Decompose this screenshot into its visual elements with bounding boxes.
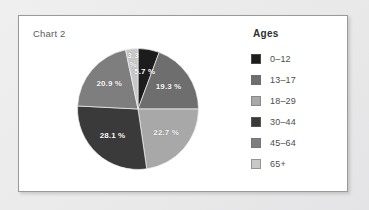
legend-item-label: 0–12 <box>270 54 291 64</box>
pie-slice-label: 28.1 % <box>100 132 126 141</box>
pie-slice[interactable] <box>138 109 199 169</box>
legend-items: 0–1213–1718–2930–4445–6465+ <box>251 48 341 174</box>
legend-swatch-icon <box>251 96 261 106</box>
legend-swatch-icon <box>251 117 261 127</box>
legend-item-label: 65+ <box>270 159 286 169</box>
pie-slice-label: 22.7 % <box>153 129 179 138</box>
screenshot-root: Chart 2 5.7 %19.3 %22.7 %28.1 %20.9 %3.3… <box>0 0 369 210</box>
pie-slice-label: 3.3 % <box>126 52 140 69</box>
legend-item[interactable]: 13–17 <box>251 69 341 90</box>
legend-item-label: 13–17 <box>270 75 296 85</box>
pie-slice-label: 20.9 % <box>96 80 122 89</box>
legend: Ages 0–1213–1718–2930–4445–6465+ <box>251 28 341 174</box>
legend-swatch-icon <box>251 138 261 148</box>
legend-swatch-icon <box>251 54 261 64</box>
legend-title: Ages <box>253 28 341 39</box>
legend-item[interactable]: 30–44 <box>251 111 341 132</box>
legend-item-label: 45–64 <box>270 138 296 148</box>
legend-item[interactable]: 45–64 <box>251 132 341 153</box>
legend-item-label: 18–29 <box>270 96 296 106</box>
pie-slice-label: 19.3 % <box>156 83 182 92</box>
legend-item-label: 30–44 <box>270 117 296 127</box>
legend-item[interactable]: 65+ <box>251 153 341 174</box>
pie-chart: 5.7 %19.3 %22.7 %28.1 %20.9 %3.3 % <box>77 48 199 170</box>
legend-swatch-icon <box>251 159 261 169</box>
legend-item[interactable]: 18–29 <box>251 90 341 111</box>
legend-item[interactable]: 0–12 <box>251 48 341 69</box>
chart-card: Chart 2 5.7 %19.3 %22.7 %28.1 %20.9 %3.3… <box>18 15 348 192</box>
chart-title: Chart 2 <box>33 28 66 39</box>
legend-swatch-icon <box>251 75 261 85</box>
